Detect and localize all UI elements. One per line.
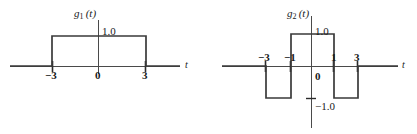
tick-label-neg1-g2: −1 — [284, 52, 296, 63]
amplitude-label-neg-g2: −1.0 — [315, 101, 335, 112]
chart-g2-canvas — [208, 0, 417, 134]
chart-g2: g2 (t) 1.0 −1.0 −3 −1 0 1 3 t — [208, 0, 417, 134]
function-label-g1: g1 (t) — [74, 8, 96, 21]
x-axis-label-g2: t — [402, 60, 405, 70]
tick-label-0-g2: 0 — [315, 71, 321, 82]
tick-label-3-g2: 3 — [354, 52, 360, 63]
amplitude-label-g1: 1.0 — [102, 26, 116, 37]
chart-g1: g1 (t) 1.0 −3 0 3 t — [0, 0, 208, 134]
tick-label-neg3-g1: −3 — [45, 70, 57, 81]
waveform-g1 — [10, 36, 180, 66]
tick-label-3-g1: 3 — [142, 70, 148, 81]
amplitude-label-pos-g2: 1.0 — [315, 26, 329, 37]
figure-container: g1 (t) 1.0 −3 0 3 t g2 (t) 1.0 −1. — [0, 0, 417, 134]
tick-label-1-g2: 1 — [331, 52, 337, 63]
x-axis-label-g1: t — [185, 60, 188, 70]
tick-label-neg3-g2: −3 — [258, 52, 270, 63]
tick-label-0-g1: 0 — [95, 70, 101, 81]
chart-g1-canvas — [0, 0, 208, 134]
function-label-g2: g2 (t) — [287, 8, 309, 21]
